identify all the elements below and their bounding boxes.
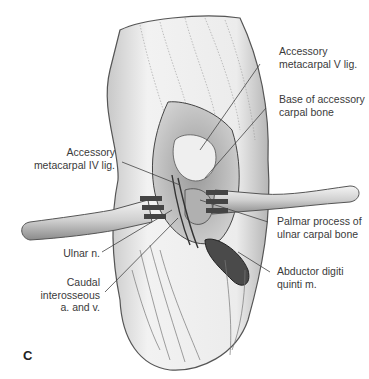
label-accessory-metacarpal-v-lig: Accessory metacarpal V lig. [279,45,357,70]
label-line: ulnar carpal bone [277,228,362,241]
label-base-of-accessory-carpal-bone: Base of accessory carpal bone [279,93,365,118]
label-line: Caudal [10,276,100,289]
surgical-illustration: Accessory metacarpal V lig. Base of acce… [0,0,369,379]
label-line: metacarpal IV lig. [10,159,115,172]
label-accessory-metacarpal-iv-lig: Accessory metacarpal IV lig. [10,146,115,171]
label-line: Palmar process of [277,215,362,228]
label-caudal-interosseous: Caudal interosseous a. and v. [10,276,100,314]
label-line: quinti m. [277,278,344,291]
label-abductor-digiti-quinti: Abductor digiti quinti m. [277,265,344,290]
label-line: Accessory [279,45,357,58]
label-line: Accessory [10,146,115,159]
label-palmar-process-ulnar-carpal: Palmar process of ulnar carpal bone [277,215,362,240]
panel-letter: C [23,348,32,363]
label-line: Ulnar n. [10,247,100,260]
label-ulnar-n: Ulnar n. [10,247,100,260]
label-line: a. and v. [10,301,100,314]
label-line: metacarpal V lig. [279,58,357,71]
label-line: Abductor digiti [277,265,344,278]
label-line: carpal bone [279,106,365,119]
label-line: Base of accessory [279,93,365,106]
label-line: interosseous [10,289,100,302]
